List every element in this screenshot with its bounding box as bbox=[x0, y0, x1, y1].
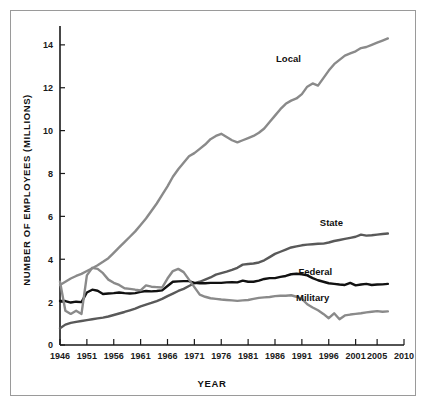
y-tick-label: 12 bbox=[43, 83, 53, 93]
y-axis-ticks: 02468101214 bbox=[43, 40, 65, 350]
x-axis-title: YEAR bbox=[198, 378, 227, 389]
y-tick-label: 2 bbox=[48, 298, 53, 308]
series-label-state: State bbox=[320, 217, 343, 228]
y-tick-label: 4 bbox=[48, 255, 53, 265]
x-tick-label: 1996 bbox=[319, 351, 339, 361]
x-tick-label: 2005 bbox=[367, 351, 387, 361]
y-tick-label: 6 bbox=[48, 212, 53, 222]
employment-line-chart: 02468101214 1946195119561961196619711976… bbox=[0, 0, 430, 408]
x-tick-label: 1966 bbox=[157, 351, 177, 361]
x-tick-label: 1946 bbox=[50, 351, 70, 361]
series-label-military: Military bbox=[296, 292, 330, 303]
x-tick-label: 1956 bbox=[104, 351, 124, 361]
series-label-federal: Federal bbox=[298, 266, 332, 277]
x-tick-label: 1991 bbox=[292, 351, 312, 361]
x-axis-ticks: 1946195119561961196619711976198119861991… bbox=[50, 339, 414, 361]
y-axis-title: NUMBER OF EMPLOYEES (MILLIONS) bbox=[21, 94, 32, 286]
x-tick-label: 1961 bbox=[131, 351, 151, 361]
x-tick-label: 1986 bbox=[265, 351, 285, 361]
x-tick-label: 1951 bbox=[77, 351, 97, 361]
y-tick-label: 8 bbox=[48, 169, 53, 179]
series-line-federal bbox=[60, 274, 388, 303]
x-tick-label: 2001 bbox=[346, 351, 366, 361]
chart-svg: 02468101214 1946195119561961196619711976… bbox=[0, 0, 430, 408]
x-tick-label: 1976 bbox=[211, 351, 231, 361]
x-tick-label: 2010 bbox=[394, 351, 414, 361]
y-tick-label: 14 bbox=[43, 40, 53, 50]
series-lines bbox=[60, 38, 388, 328]
series-annotations: LocalStateFederalMilitary bbox=[276, 53, 343, 303]
x-tick-label: 1981 bbox=[238, 351, 258, 361]
y-tick-label: 10 bbox=[43, 126, 53, 136]
y-tick-label: 0 bbox=[48, 340, 53, 350]
series-line-local bbox=[60, 38, 388, 285]
series-label-local: Local bbox=[276, 53, 301, 64]
x-tick-label: 1971 bbox=[184, 351, 204, 361]
